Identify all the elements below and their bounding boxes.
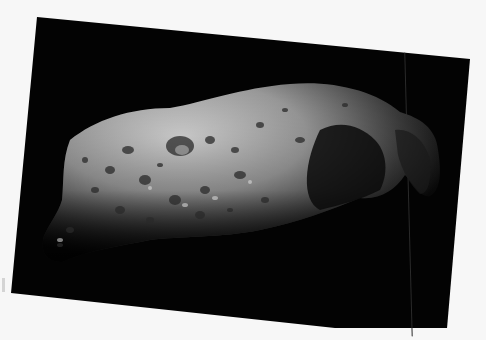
edge-mark (2, 278, 5, 292)
